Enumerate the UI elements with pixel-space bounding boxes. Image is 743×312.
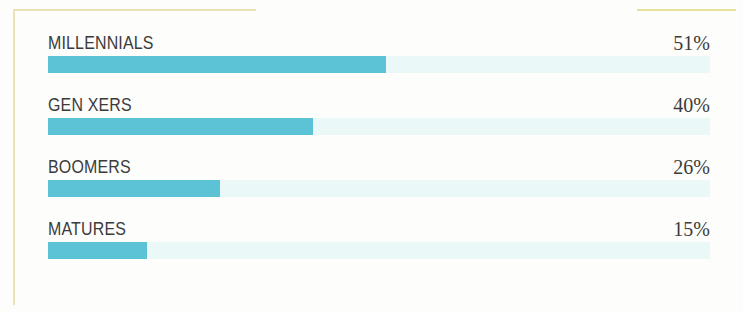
bar-value-label: 40% bbox=[673, 92, 710, 118]
horizontal-bar-chart: MILLENNIALS 51% GEN XERS 40% BOOMERS 26% bbox=[48, 30, 710, 259]
bar-track bbox=[48, 118, 710, 135]
bar-category-label: MILLENNIALS bbox=[48, 30, 154, 56]
bar-row-header: GEN XERS 40% bbox=[48, 92, 710, 118]
bar-track bbox=[48, 56, 710, 73]
bar-row-header: MATURES 15% bbox=[48, 216, 710, 242]
bar-track bbox=[48, 180, 710, 197]
bar-fill bbox=[48, 242, 147, 259]
bar-row: GEN XERS 40% bbox=[48, 92, 710, 135]
bar-row: MILLENNIALS 51% bbox=[48, 30, 710, 73]
bar-fill bbox=[48, 180, 220, 197]
bar-row: BOOMERS 26% bbox=[48, 154, 710, 197]
frame-top-left-rule bbox=[13, 9, 256, 11]
bar-category-label: BOOMERS bbox=[48, 154, 131, 180]
frame-top-right-rule bbox=[637, 9, 736, 11]
bar-value-label: 26% bbox=[673, 154, 710, 180]
bar-row-header: MILLENNIALS 51% bbox=[48, 30, 710, 56]
bar-row: MATURES 15% bbox=[48, 216, 710, 259]
slide-canvas: MILLENNIALS 51% GEN XERS 40% BOOMERS 26% bbox=[0, 0, 743, 312]
frame-left-rule bbox=[13, 9, 15, 305]
bar-fill bbox=[48, 56, 386, 73]
bar-category-label: MATURES bbox=[48, 216, 126, 242]
bar-row-header: BOOMERS 26% bbox=[48, 154, 710, 180]
bar-category-label: GEN XERS bbox=[48, 92, 132, 118]
bar-fill bbox=[48, 118, 313, 135]
bar-track bbox=[48, 242, 710, 259]
bar-value-label: 51% bbox=[673, 30, 710, 56]
bar-value-label: 15% bbox=[673, 216, 710, 242]
